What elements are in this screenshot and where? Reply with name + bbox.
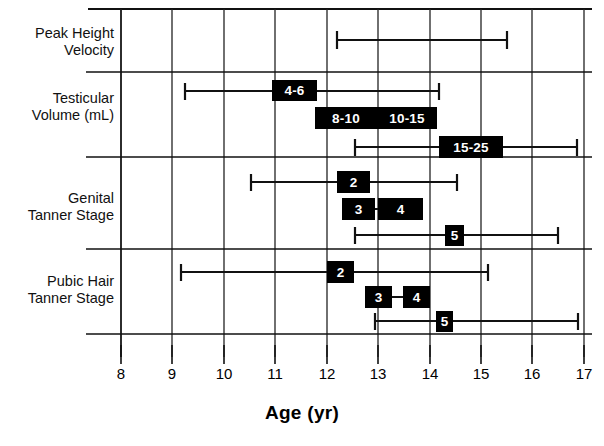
puberty-timeline-chart: Peak Height Velocity Testicular Volume (… <box>0 0 604 446</box>
x-axis-title: Age (yr) <box>232 402 372 424</box>
range-bar-pubic-5 <box>375 313 578 330</box>
x-tick-label-11: 11 <box>258 366 292 382</box>
x-tick-label-10: 10 <box>207 366 241 382</box>
x-tick-label-17: 17 <box>567 366 601 382</box>
x-tick-label-12: 12 <box>310 366 344 382</box>
marker-testicular-10-15: 10-15 <box>377 107 437 129</box>
row-label-genital-tanner-stage: Genital Tanner Stage <box>6 190 114 223</box>
row-label-pubic-hair-tanner-stage: Pubic Hair Tanner Stage <box>6 273 114 306</box>
marker-pubic-4: 4 <box>403 286 430 308</box>
row-label-peak-height-velocity: Peak Height Velocity <box>6 25 114 58</box>
marker-testicular-8-10: 8-10 <box>315 107 377 129</box>
marker-genital-4: 4 <box>378 198 423 220</box>
x-tick-label-16: 16 <box>515 366 549 382</box>
marker-testicular-15-25: 15-25 <box>439 136 503 158</box>
marker-genital-2: 2 <box>337 171 370 193</box>
marker-genital-3: 3 <box>342 198 375 220</box>
x-tick-label-14: 14 <box>413 366 447 382</box>
marker-pubic-3: 3 <box>365 286 392 308</box>
marker-genital-5: 5 <box>445 225 464 246</box>
x-axis-ticks <box>121 345 584 364</box>
marker-pubic-2: 2 <box>327 261 354 283</box>
row-label-testicular-volume: Testicular Volume (mL) <box>6 90 114 123</box>
x-tick-label-15: 15 <box>464 366 498 382</box>
marker-pubic-5: 5 <box>436 311 453 332</box>
marker-testicular-4-6: 4-6 <box>272 80 317 101</box>
x-tick-label-9: 9 <box>158 366 186 382</box>
x-tick-label-13: 13 <box>361 366 395 382</box>
chart-canvas <box>0 0 604 446</box>
x-tick-label-8: 8 <box>107 366 135 382</box>
